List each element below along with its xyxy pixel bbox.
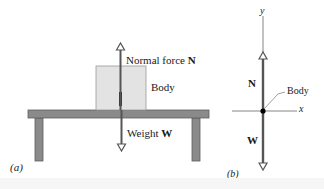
normal-symbol-b: N (248, 78, 256, 89)
weight-symbol: W (161, 127, 172, 139)
body-point-dot (260, 108, 265, 113)
x-axis-label: x (299, 104, 303, 114)
normal-force-label: Normal force N (126, 55, 196, 66)
weight-text: Weight (127, 127, 161, 139)
body-leader-line (264, 92, 285, 109)
free-body-diagram-figure: Normal force N Body Weight W (a) y x N W… (0, 0, 324, 189)
table-leg-left (35, 118, 43, 161)
bottom-margin-band (0, 178, 324, 189)
normal-force-text: Normal force (126, 54, 188, 66)
normal-force-symbol: N (188, 54, 196, 66)
weight-arrowhead-icon (118, 144, 126, 151)
table-top (28, 110, 209, 118)
weight-arrowhead-b-icon (259, 163, 267, 170)
table-leg-right (192, 118, 200, 161)
body-label-b: Body (287, 86, 309, 96)
weight-symbol-b: W (247, 135, 258, 146)
normal-force-arrowhead-icon (117, 43, 125, 50)
normal-arrowhead-b-icon (259, 52, 267, 59)
diagram-graphics (0, 0, 324, 189)
weight-label: Weight W (127, 128, 172, 139)
y-axis-label: y (260, 6, 264, 16)
panel-a-label: (a) (10, 162, 23, 173)
body-label-a: Body (151, 82, 175, 93)
